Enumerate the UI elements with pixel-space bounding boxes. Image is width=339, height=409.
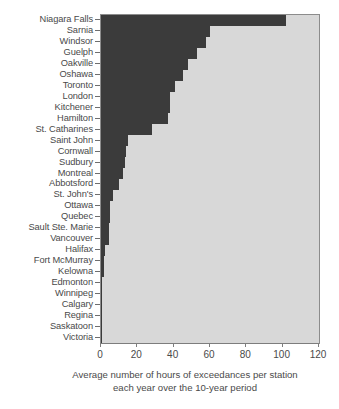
category-tick — [95, 107, 100, 108]
category-tick — [95, 304, 100, 305]
category-tick — [95, 129, 100, 130]
x-axis-tick-label: 60 — [194, 349, 224, 360]
category-label: Guelph — [0, 47, 93, 57]
x-axis-tick — [245, 343, 246, 347]
category-tick — [95, 205, 100, 206]
category-tick — [95, 41, 100, 42]
bar — [101, 135, 128, 146]
bar — [101, 245, 105, 256]
category-label: Toronto — [0, 80, 93, 90]
category-label: Kitchener — [0, 102, 93, 112]
category-tick — [95, 173, 100, 174]
category-label: Montreal — [0, 168, 93, 178]
caption-line-2: each year over the 10-year period — [40, 381, 330, 394]
x-axis-tick — [173, 343, 174, 347]
category-tick — [95, 249, 100, 250]
bar — [101, 201, 110, 212]
category-label: Hamilton — [0, 113, 93, 123]
category-tick — [95, 96, 100, 97]
bar — [101, 299, 102, 310]
category-label: Abbotsford — [0, 178, 93, 188]
category-tick — [95, 85, 100, 86]
category-label: Edmonton — [0, 277, 93, 287]
caption-line-1: Average number of hours of exceedances p… — [40, 368, 330, 381]
category-label: Sarnia — [0, 25, 93, 35]
bar — [101, 37, 206, 48]
x-axis-tick-label: 40 — [158, 349, 188, 360]
category-label: St. John's — [0, 189, 93, 199]
category-tick — [95, 326, 100, 327]
x-axis-tick — [282, 343, 283, 347]
category-label: Windsor — [0, 36, 93, 46]
category-tick — [95, 118, 100, 119]
bar — [101, 256, 104, 267]
x-axis-tick-label: 100 — [267, 349, 297, 360]
bar — [101, 48, 197, 59]
bar — [101, 277, 102, 288]
bar — [101, 179, 119, 190]
bar — [101, 15, 286, 26]
bar — [101, 59, 188, 70]
category-label: Oakville — [0, 58, 93, 68]
category-label: St. Catharines — [0, 124, 93, 134]
category-label: Quebec — [0, 211, 93, 221]
bar — [101, 146, 126, 157]
category-label: Halifax — [0, 244, 93, 254]
bar — [101, 288, 102, 299]
category-tick — [95, 216, 100, 217]
x-axis-caption: Average number of hours of exceedances p… — [40, 368, 330, 394]
category-label: Oshawa — [0, 69, 93, 79]
category-tick — [95, 30, 100, 31]
category-label: Cornwall — [0, 146, 93, 156]
category-tick — [95, 282, 100, 283]
category-label: Sault Ste. Marie — [0, 222, 93, 232]
x-axis-tick-label: 20 — [121, 349, 151, 360]
bar — [101, 212, 110, 223]
category-tick — [95, 227, 100, 228]
category-label: Saint John — [0, 135, 93, 145]
category-tick — [95, 140, 100, 141]
x-axis-tick-label: 0 — [85, 349, 115, 360]
category-tick — [95, 315, 100, 316]
category-tick — [95, 63, 100, 64]
category-label: Victoria — [0, 332, 93, 342]
bar — [101, 168, 123, 179]
plot-area — [100, 14, 320, 344]
bar — [101, 113, 168, 124]
category-tick — [95, 183, 100, 184]
category-axis-labels: Niagara FallsSarniaWindsorGuelphOakville… — [0, 14, 93, 342]
category-tick — [95, 52, 100, 53]
category-label: Winnipeg — [0, 288, 93, 298]
x-axis-tick-label: 80 — [230, 349, 260, 360]
bar — [101, 81, 175, 92]
category-tick — [95, 238, 100, 239]
category-tick — [95, 19, 100, 20]
x-axis-tick — [100, 343, 101, 347]
bar — [101, 70, 183, 81]
category-label: Saskatoon — [0, 321, 93, 331]
category-tick — [95, 74, 100, 75]
category-label: Regina — [0, 310, 93, 320]
bar — [101, 223, 109, 234]
category-label: Ottawa — [0, 200, 93, 210]
category-label: Vancouver — [0, 233, 93, 243]
bar-chart: Niagara FallsSarniaWindsorGuelphOakville… — [0, 0, 339, 409]
bar — [101, 102, 170, 113]
category-label: London — [0, 91, 93, 101]
category-tick — [95, 293, 100, 294]
category-tick — [95, 271, 100, 272]
bar — [101, 124, 152, 135]
category-label: Fort McMurray — [0, 255, 93, 265]
x-axis-tick — [318, 343, 319, 347]
x-axis-tick-label: 120 — [303, 349, 333, 360]
bar — [101, 190, 113, 201]
category-tick — [95, 151, 100, 152]
category-tick — [95, 260, 100, 261]
category-tick — [95, 162, 100, 163]
bar — [101, 26, 210, 37]
bar — [101, 234, 109, 245]
category-tick — [95, 194, 100, 195]
bar — [101, 92, 170, 103]
bar — [101, 266, 104, 277]
x-axis-tick — [136, 343, 137, 347]
